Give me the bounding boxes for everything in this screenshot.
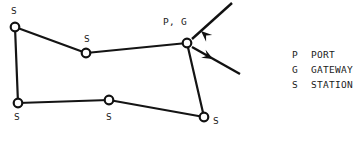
edge-n4-n5 [18,100,109,103]
legend-label-gateway: GATEWAY [311,64,353,75]
edge-n3-n6 [187,43,204,117]
node-label-n6: S [213,115,219,126]
legend-key-station: S [292,79,298,90]
incoming-link-arrow-shaft [192,3,232,39]
external-links-group [192,3,240,74]
edge-n2-n3 [86,43,187,53]
node-label-n2: S [84,33,90,44]
node-n1-station[interactable] [11,23,20,32]
network-diagram: SSP, GSSS PPORTGGATEWAYSSTATION [0,0,363,143]
legend-label-port: PORT [311,49,335,60]
node-n4-station[interactable] [14,99,23,108]
incoming-link-arrow-head [198,28,212,42]
node-label-n1: S [11,5,17,16]
node-n3-port-gateway[interactable] [183,39,192,48]
node-label-n4: S [14,111,20,122]
legend-label-station: STATION [311,79,353,90]
legend-key-gateway: G [292,64,298,75]
network-diagram-canvas: SSP, GSSS PPORTGGATEWAYSSTATION [0,0,363,143]
legend: PPORTGGATEWAYSSTATION [292,49,353,90]
edge-n1-n2 [15,27,86,53]
node-n6-station[interactable] [200,113,209,122]
outgoing-link-arrow-head [201,50,215,63]
edge-n5-n6 [109,100,204,117]
outgoing-link-arrow-shaft [192,47,240,74]
node-n5-station[interactable] [105,96,114,105]
node-label-n3: P, G [163,16,187,27]
edge-n1-n4 [15,27,18,103]
legend-key-port: P [292,49,298,60]
nodes-group [11,23,209,122]
node-label-n5: S [106,111,112,122]
node-n2-station[interactable] [82,49,91,58]
node-labels-group: SSP, GSSS [11,5,219,126]
